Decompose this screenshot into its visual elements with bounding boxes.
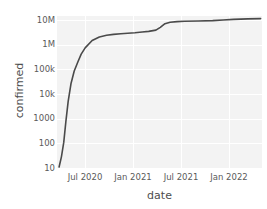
- x-tick-label: Jan 2021: [114, 172, 151, 182]
- y-axis-ticks: 10M 1M 100k 10k 1000 100 10: [0, 0, 55, 209]
- y-axis-title: confirmed: [13, 41, 26, 141]
- y-tick-label: 1000: [3, 114, 55, 123]
- x-tick-label: Jul 2020: [68, 172, 103, 182]
- x-axis-title: date: [57, 189, 262, 202]
- chart-figure: 10M 1M 100k 10k 1000 100 10 Jul 2020 Jan…: [0, 0, 267, 209]
- x-tick-label: Jul 2021: [164, 172, 199, 182]
- plot-area: [57, 16, 262, 169]
- confirmed-series-line: [57, 16, 262, 169]
- y-tick-label: 100: [3, 139, 55, 148]
- y-tick-label: 10M: [3, 16, 55, 25]
- x-tick-label: Jan 2022: [210, 172, 247, 182]
- y-tick-label: 10: [3, 164, 55, 173]
- y-tick-label: 10k: [3, 90, 55, 99]
- y-tick-label: 100k: [3, 65, 55, 74]
- y-tick-label: 1M: [3, 40, 55, 49]
